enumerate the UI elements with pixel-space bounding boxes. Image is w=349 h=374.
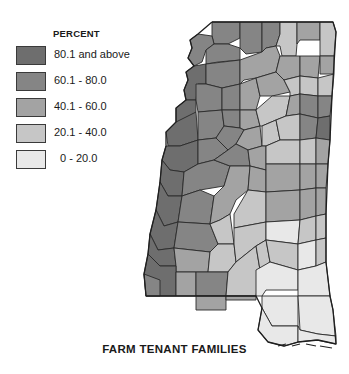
legend-swatch	[16, 72, 46, 91]
legend-label: 20.1 - 40.0	[54, 126, 107, 138]
county	[266, 190, 300, 222]
county	[298, 240, 316, 270]
county	[176, 272, 196, 296]
legend-swatch	[16, 98, 46, 117]
legend-title: PERCENT	[53, 28, 100, 39]
county	[298, 216, 316, 244]
county	[300, 188, 316, 220]
county	[206, 60, 240, 88]
county	[300, 164, 316, 190]
county	[316, 238, 326, 266]
county	[316, 116, 330, 140]
county	[196, 296, 226, 310]
county	[300, 56, 320, 78]
legend-label: 40.1 - 60.0	[54, 100, 107, 112]
county	[320, 22, 336, 56]
legend-item: 20.1 - 40.0	[16, 124, 156, 144]
county	[266, 164, 300, 192]
county	[320, 56, 334, 74]
county	[248, 166, 266, 192]
county	[300, 138, 316, 164]
legend-label: 0 - 20.0	[54, 152, 97, 164]
legend-label: 80.1 and above	[54, 48, 130, 60]
legend-item: 80.1 and above	[16, 46, 156, 66]
legend-swatch	[16, 150, 46, 169]
county	[316, 214, 326, 240]
legend: PERCENT 80.1 and above 60.1 - 80.0 40.1 …	[0, 0, 150, 170]
legend-label: 60.1 - 80.0	[54, 74, 107, 86]
legend-swatch	[16, 124, 46, 143]
county	[174, 248, 210, 272]
county	[318, 96, 332, 118]
county	[178, 190, 214, 224]
county	[222, 84, 240, 110]
legend-item: 60.1 - 80.0	[16, 72, 156, 92]
county	[222, 110, 240, 128]
county	[297, 22, 320, 44]
county-layer	[144, 22, 336, 346]
map-caption: FARM TENANT FAMILIES	[0, 343, 349, 355]
county	[300, 114, 318, 140]
county	[300, 76, 318, 96]
county	[316, 188, 326, 216]
county	[316, 164, 328, 188]
legend-item: 0 - 20.0	[16, 150, 156, 170]
county	[196, 84, 222, 112]
county	[212, 22, 240, 44]
legend-swatch	[16, 46, 46, 65]
county	[266, 140, 300, 164]
legend-item: 40.1 - 60.0	[16, 98, 156, 118]
county	[196, 272, 228, 296]
county	[240, 22, 262, 54]
county	[298, 296, 336, 336]
